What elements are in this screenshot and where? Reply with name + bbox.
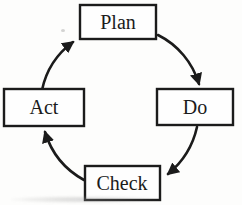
check-label: Check [96, 172, 147, 194]
arrow-plan-to-do [158, 35, 199, 84]
diagram-canvas: Plan Do Check Act [0, 0, 242, 205]
arrow-check-to-act [45, 132, 84, 180]
arrow-act-to-plan [42, 42, 73, 90]
node-check: Check [85, 166, 160, 200]
node-act: Act [4, 89, 84, 126]
arrow-do-to-check [168, 127, 197, 174]
node-plan: Plan [80, 5, 156, 39]
plan-label: Plan [100, 11, 136, 33]
act-label: Act [30, 96, 59, 118]
node-do: Do [157, 89, 233, 125]
pdca-cycle-diagram: Plan Do Check Act [0, 0, 242, 205]
do-label: Do [183, 96, 207, 118]
